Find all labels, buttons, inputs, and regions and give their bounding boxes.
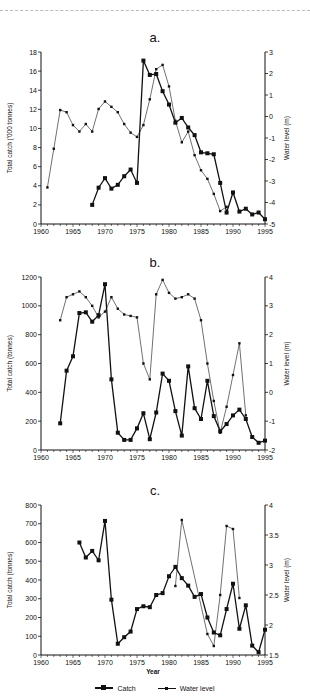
y-tick-label: 14 xyxy=(29,87,37,94)
y2-tick-label: 3 xyxy=(269,562,273,569)
y-axis-title: Total catch ('000 tonnes) xyxy=(6,103,14,174)
water-level-point xyxy=(91,305,93,307)
y-tick-label: 200 xyxy=(25,614,37,621)
y-tick-label: 700 xyxy=(25,520,37,527)
y-axis-title: Total catch (tonnes) xyxy=(6,335,14,392)
catch-point xyxy=(199,417,203,421)
catch-point xyxy=(257,650,261,654)
water-level-point xyxy=(110,296,112,298)
x-axis-title: Year xyxy=(146,668,160,675)
catch-point xyxy=(180,116,184,120)
water-level-point xyxy=(174,120,176,122)
water-level-point xyxy=(104,100,106,102)
water-level-point xyxy=(97,108,99,110)
x-tick-label: 1975 xyxy=(129,454,145,461)
catch-point xyxy=(186,584,190,588)
catch-point xyxy=(77,541,81,545)
water-level-point xyxy=(206,362,208,364)
water-level-point xyxy=(123,313,125,315)
catch-point xyxy=(212,414,216,418)
y2-tick-label: 1 xyxy=(269,92,273,99)
chart-panel-a: a.19601965197019751980198519901995024681… xyxy=(6,30,291,235)
y2-tick-label: -2 xyxy=(269,156,275,163)
legend-item-water-level: Water level xyxy=(158,684,215,692)
x-tick-label: 1960 xyxy=(33,454,49,461)
water-level-point xyxy=(85,123,87,125)
water-level-point xyxy=(174,585,176,587)
water-level-point xyxy=(181,141,183,143)
y-tick-label: 100 xyxy=(25,633,37,640)
y-tick-label: 12 xyxy=(29,106,37,113)
catch-marker-icon xyxy=(95,684,113,692)
catch-point xyxy=(154,593,158,597)
y-tick-label: 300 xyxy=(25,595,37,602)
legend-label-catch: Catch xyxy=(117,685,135,692)
y-tick-label: 400 xyxy=(25,577,37,584)
water-level-point xyxy=(136,316,138,318)
catch-point xyxy=(263,217,267,221)
water-level-line xyxy=(60,280,246,433)
catch-point xyxy=(135,426,139,430)
catch-point xyxy=(218,633,222,637)
catch-point xyxy=(231,413,235,417)
catch-point xyxy=(90,320,94,324)
water-level-point xyxy=(161,279,163,281)
x-tick-label: 1965 xyxy=(65,454,81,461)
water-level-point xyxy=(129,315,131,317)
catch-point xyxy=(250,644,254,648)
y-tick-label: 800 xyxy=(25,502,37,509)
water-level-point xyxy=(225,406,227,408)
catch-point xyxy=(186,125,190,129)
chart-panel-c: c.19601965197019751980198519901995010020… xyxy=(6,483,291,675)
y2-tick-label: -5 xyxy=(269,221,275,228)
catch-point xyxy=(180,576,184,580)
catch-point xyxy=(116,183,120,187)
water-level-point xyxy=(129,131,131,133)
catch-point xyxy=(257,441,261,445)
y-tick-label: 8 xyxy=(33,144,37,151)
water-level-marker-icon xyxy=(158,684,176,692)
legend-item-catch: Catch xyxy=(95,684,135,692)
water-level-point xyxy=(136,136,138,138)
catch-point xyxy=(65,369,69,373)
water-level-point xyxy=(46,186,48,188)
water-level-point xyxy=(206,178,208,180)
y2-tick-label: 2.5 xyxy=(269,592,279,599)
x-tick-label: 1980 xyxy=(161,659,177,666)
catch-point xyxy=(122,174,126,178)
y-tick-label: 4 xyxy=(33,182,37,189)
water-level-point xyxy=(149,378,151,380)
x-tick-label: 1995 xyxy=(257,228,273,235)
water-level-point xyxy=(53,148,55,150)
catch-point xyxy=(199,150,203,154)
catch-point xyxy=(135,607,139,611)
y-tick-label: 6 xyxy=(33,163,37,170)
x-tick-label: 1960 xyxy=(33,228,49,235)
catch-point xyxy=(237,627,241,631)
y-tick-label: 600 xyxy=(25,539,37,546)
water-level-point xyxy=(117,308,119,310)
catch-point xyxy=(237,408,241,412)
catch-point xyxy=(90,203,94,207)
y2-tick-label: -3 xyxy=(269,178,275,185)
y-tick-label: 500 xyxy=(25,558,37,565)
water-level-point xyxy=(142,124,144,126)
water-level-point xyxy=(59,109,61,111)
x-tick-label: 1975 xyxy=(129,228,145,235)
x-tick-label: 1980 xyxy=(161,454,177,461)
x-tick-label: 1980 xyxy=(161,228,177,235)
x-tick-label: 1985 xyxy=(193,228,209,235)
y2-tick-label: 2 xyxy=(269,70,273,77)
y-tick-label: 1200 xyxy=(21,274,37,281)
water-level-point xyxy=(72,293,74,295)
catch-point xyxy=(218,181,222,185)
catch-point xyxy=(250,212,254,216)
y-tick-label: 18 xyxy=(29,49,37,56)
catch-point xyxy=(154,411,158,415)
catch-point xyxy=(141,411,145,415)
catch-point xyxy=(122,635,126,639)
catch-point xyxy=(141,604,145,608)
water-level-point xyxy=(219,210,221,212)
catch-point xyxy=(84,310,88,314)
catch-point xyxy=(244,603,248,607)
